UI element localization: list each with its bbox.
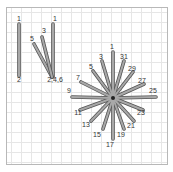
stitch-number-label: 1: [110, 43, 114, 50]
stitch-number-label: 1: [53, 15, 57, 22]
stitch-number-label: 17: [106, 141, 114, 148]
center-point-icon: [111, 96, 115, 100]
stitch-number-label: 5: [30, 35, 34, 42]
stitch-number-label: 9: [67, 87, 71, 94]
stitch-number-label: 11: [74, 109, 81, 116]
stitch-number-label: 2,4,6: [47, 76, 63, 83]
left-stitch-group: [19, 24, 53, 77]
stitch-number-label: 13: [82, 121, 90, 128]
stitch-diagram: 113522,4,6133152972792511231321151917: [0, 0, 173, 172]
stitch-number-label: 25: [149, 87, 157, 94]
stitch-number-label: 1: [17, 15, 21, 22]
stitch-number-label: 5: [89, 63, 93, 70]
stitch-labels: 113522,4,6133152972792511231321151917: [17, 15, 157, 148]
stitch-number-label: 2: [17, 76, 21, 83]
stitch-number-label: 19: [117, 131, 125, 138]
stitch-number-label: 21: [127, 122, 135, 129]
stitch-number-label: 31: [120, 53, 128, 60]
stitch-number-label: 15: [93, 131, 101, 138]
stitch-number-label: 3: [99, 53, 103, 60]
stitch-number-label: 29: [128, 65, 136, 72]
stitch-number-label: 23: [137, 109, 145, 116]
stitch-number-label: 7: [76, 74, 80, 81]
stitch-number-label: 3: [42, 27, 46, 34]
stitch-number-label: 27: [138, 77, 146, 84]
